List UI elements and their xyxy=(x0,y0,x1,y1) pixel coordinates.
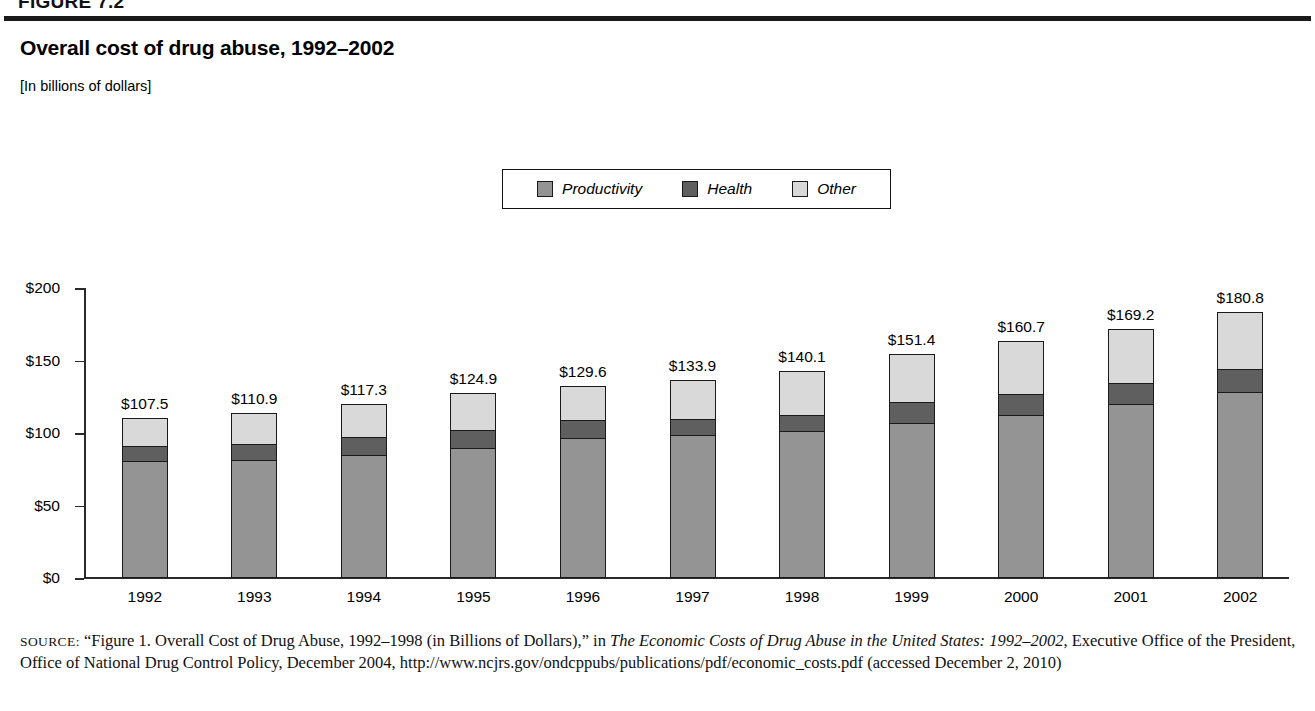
bar-segment-other xyxy=(1218,313,1262,370)
y-tick-label: $200 xyxy=(26,279,60,297)
figure-number: FIGURE 7.2 xyxy=(18,0,124,13)
bar-total-label: $133.9 xyxy=(669,357,716,375)
y-tick-mark xyxy=(75,361,84,363)
bar-group-1993[interactable]: $110.9 xyxy=(232,413,276,578)
bar-group-1995[interactable]: $124.9 xyxy=(451,393,495,578)
legend-swatch-health xyxy=(682,181,698,197)
bar-segment-productivity xyxy=(999,416,1043,577)
bar-group-1997[interactable]: $133.9 xyxy=(671,380,715,578)
y-tick-mark xyxy=(75,506,84,508)
bar-segment-productivity xyxy=(123,462,167,577)
legend-item-productivity: Productivity xyxy=(537,180,642,198)
y-tick-mark xyxy=(75,433,84,435)
bar-segment-productivity xyxy=(671,436,715,577)
bar-total-label: $117.3 xyxy=(341,381,387,399)
bar-segment-productivity xyxy=(1218,393,1262,577)
bar-group-1992[interactable]: $107.5 xyxy=(123,418,167,578)
bar-stack xyxy=(1217,312,1263,578)
bar-total-label: $110.9 xyxy=(231,390,277,408)
x-tick-label-1992: 1992 xyxy=(128,588,162,606)
bar-segment-health xyxy=(671,420,715,436)
bar-segment-other xyxy=(1109,330,1153,384)
source-publication-title: The Economic Costs of Drug Abuse in the … xyxy=(610,631,1063,650)
legend-label-health: Health xyxy=(707,180,752,198)
legend-swatch-productivity xyxy=(537,181,553,197)
chart-legend: ProductivityHealthOther xyxy=(502,169,891,209)
bar-total-label: $129.6 xyxy=(559,363,606,381)
bar-stack xyxy=(450,393,496,578)
x-tick-label-1997: 1997 xyxy=(675,588,709,606)
bar-group-1998[interactable]: $140.1 xyxy=(780,371,824,578)
bar-stack xyxy=(560,386,606,578)
bar-group-1996[interactable]: $129.6 xyxy=(561,386,605,578)
y-tick-label: $150 xyxy=(26,352,60,370)
bar-segment-other xyxy=(780,372,824,417)
header-divider xyxy=(4,16,1311,21)
x-tick-label-1999: 1999 xyxy=(894,588,928,606)
bar-segment-health xyxy=(451,431,495,449)
bar-segment-health xyxy=(1218,370,1262,393)
bar-segment-productivity xyxy=(780,432,824,577)
bar-segment-other xyxy=(232,414,276,444)
source-note: SOURCE: “Figure 1. Overall Cost of Drug … xyxy=(20,630,1300,674)
bar-total-label: $124.9 xyxy=(450,370,497,388)
bar-segment-health xyxy=(1109,384,1153,406)
bar-stack xyxy=(779,371,825,578)
legend-swatch-other xyxy=(792,181,808,197)
bar-series-container: $107.5$110.9$117.3$124.9$129.6$133.9$140… xyxy=(84,288,1289,578)
bar-total-label: $160.7 xyxy=(997,318,1044,336)
x-tick-label-1996: 1996 xyxy=(566,588,600,606)
bar-segment-other xyxy=(123,419,167,447)
bar-segment-health xyxy=(232,445,276,461)
bar-group-1999[interactable]: $151.4 xyxy=(890,354,934,578)
bar-total-label: $151.4 xyxy=(888,331,935,349)
bar-segment-other xyxy=(999,342,1043,395)
bar-segment-health xyxy=(561,421,605,439)
bar-segment-productivity xyxy=(890,424,934,577)
bar-total-label: $107.5 xyxy=(121,395,168,413)
bar-segment-other xyxy=(342,405,386,438)
legend-item-other: Other xyxy=(792,180,856,198)
bar-total-label: $180.8 xyxy=(1217,289,1264,307)
y-tick-mark xyxy=(75,288,84,290)
bar-group-2000[interactable]: $160.7 xyxy=(999,341,1043,578)
page-title: Overall cost of drug abuse, 1992–2002 xyxy=(20,36,394,60)
bar-segment-productivity xyxy=(232,461,276,577)
y-tick-label: $100 xyxy=(26,424,60,442)
bar-segment-health xyxy=(890,403,934,423)
bar-segment-health xyxy=(342,438,386,456)
bar-group-1994[interactable]: $117.3 xyxy=(342,404,386,578)
bar-segment-productivity xyxy=(561,439,605,577)
x-tick-label-1998: 1998 xyxy=(785,588,819,606)
x-tick-label-2000: 2000 xyxy=(1004,588,1038,606)
legend-item-health: Health xyxy=(682,180,752,198)
bar-segment-health xyxy=(999,395,1043,416)
figure-page: FIGURE 7.2 Overall cost of drug abuse, 1… xyxy=(0,0,1315,711)
chart-subtitle: [In billions of dollars] xyxy=(20,78,151,94)
bar-segment-productivity xyxy=(451,449,495,577)
bar-segment-other xyxy=(890,355,934,403)
bar-stack xyxy=(231,413,277,578)
y-tick-mark xyxy=(75,578,84,580)
legend-label-productivity: Productivity xyxy=(562,180,642,198)
x-tick-label-1994: 1994 xyxy=(347,588,381,606)
bar-segment-other xyxy=(561,387,605,421)
bar-group-2002[interactable]: $180.8 xyxy=(1218,312,1262,578)
bar-segment-other xyxy=(451,394,495,431)
bar-stack xyxy=(889,354,935,578)
bar-stack xyxy=(122,418,168,578)
bar-segment-health xyxy=(123,447,167,463)
bar-stack xyxy=(998,341,1044,578)
bar-total-label: $169.2 xyxy=(1107,306,1154,324)
legend-label-other: Other xyxy=(817,180,856,198)
bar-stack xyxy=(670,380,716,578)
x-tick-label-1995: 1995 xyxy=(456,588,490,606)
bar-group-2001[interactable]: $169.2 xyxy=(1109,329,1153,578)
bar-segment-other xyxy=(671,381,715,420)
bar-total-label: $140.1 xyxy=(778,348,825,366)
y-tick-label: $50 xyxy=(34,497,60,515)
x-tick-label-2001: 2001 xyxy=(1113,588,1147,606)
source-text-pre: “Figure 1. Overall Cost of Drug Abuse, 1… xyxy=(80,631,610,650)
x-tick-label-2002: 2002 xyxy=(1223,588,1257,606)
source-label: SOURCE: xyxy=(20,634,80,649)
